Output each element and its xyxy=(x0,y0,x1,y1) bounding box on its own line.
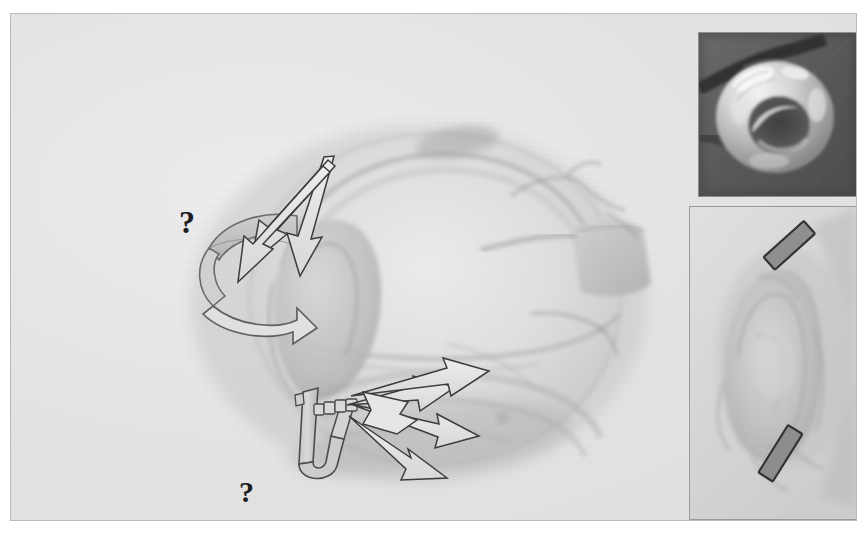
detail-svg xyxy=(690,207,856,519)
prosthetic-ring-photograph xyxy=(698,32,857,197)
ring-photo-svg xyxy=(699,33,856,196)
question-mark-top: ? xyxy=(179,206,195,238)
figure-root: ? ? xyxy=(0,0,868,535)
nodule xyxy=(496,411,510,425)
question-mark-bottom: ? xyxy=(239,477,254,507)
figure-panel: ? ? xyxy=(10,13,857,521)
cut-off-header-sliver xyxy=(0,0,868,11)
valve-detail-closeup xyxy=(689,206,857,520)
